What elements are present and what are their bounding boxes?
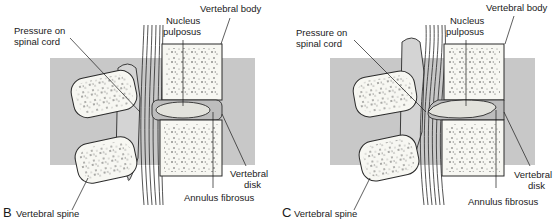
panel-b: Vertebral body Nucleus pulposus Pressure… <box>0 0 278 221</box>
label-vertebral-disk-line2: disk <box>528 180 545 191</box>
label-pressure-line2: spinal cord <box>14 36 60 47</box>
label-nucleus-pulposus-line1: Nucleus <box>450 15 484 26</box>
panel-letter-c: C <box>282 205 291 220</box>
label-vertebral-disk-line2: disk <box>244 179 261 190</box>
label-vertebral-spine: Vertebral spine <box>294 208 357 219</box>
label-nucleus-pulposus-line2: pulposus <box>446 26 484 37</box>
label-pressure-line2: spinal cord <box>296 38 342 49</box>
label-nucleus-pulposus-line1: Nucleus <box>166 15 200 26</box>
label-pressure-line1: Pressure on <box>14 25 65 36</box>
label-vertebral-disk-line1: Vertebral <box>230 168 268 179</box>
panel-c: Vertebral body Nucleus pulposus Pressure… <box>278 0 556 221</box>
label-vertebral-spine: Vertebral spine <box>16 208 79 219</box>
label-vertebral-body: Vertebral body <box>200 3 261 14</box>
label-annulus-fibrosus: Annulus fibrosus <box>184 192 254 203</box>
label-annulus-fibrosus: Annulus fibrosus <box>468 196 538 207</box>
label-pressure-line1: Pressure on <box>296 27 347 38</box>
label-vertebral-body: Vertebral body <box>486 2 547 13</box>
panel-letter-b: B <box>3 205 12 220</box>
label-nucleus-pulposus-line2: pulposus <box>163 26 201 37</box>
label-vertebral-disk-line1: Vertebral <box>514 169 552 180</box>
